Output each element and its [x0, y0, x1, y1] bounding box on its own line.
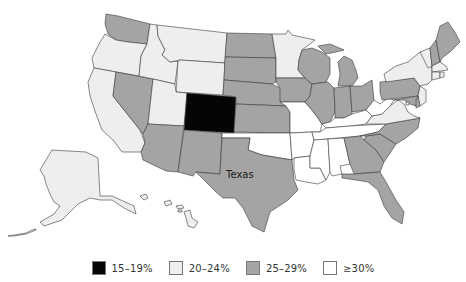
state-connecticut[interactable]: [432, 72, 440, 80]
legend-label: 25–29%: [266, 263, 307, 274]
state-new-mexico[interactable]: [178, 130, 222, 176]
legend-label: 20–24%: [189, 263, 230, 274]
legend-label: 15–19%: [112, 263, 153, 274]
state-indiana[interactable]: [334, 86, 352, 118]
state-kansas[interactable]: [234, 104, 290, 133]
legend-swatch-gray: [246, 261, 260, 275]
alaska-aleutians: [8, 229, 36, 236]
legend-swatch-light: [169, 261, 183, 275]
district-of-columbia[interactable]: [406, 102, 409, 105]
state-south-dakota[interactable]: [224, 57, 276, 84]
state-hawaii[interactable]: [140, 194, 198, 228]
state-rhode-island[interactable]: [440, 72, 444, 78]
state-montana[interactable]: [157, 25, 227, 63]
map-legend: 15–19% 20–24% 25–29% ≥30%: [0, 258, 466, 278]
legend-item-15-19: 15–19%: [92, 261, 153, 275]
legend-label: ≥30%: [343, 263, 374, 274]
legend-item-20-24: 20–24%: [169, 261, 230, 275]
state-arizona[interactable]: [141, 124, 184, 172]
state-florida[interactable]: [342, 172, 404, 224]
state-north-dakota[interactable]: [225, 33, 276, 58]
us-choropleth-map: Texas: [0, 0, 466, 250]
legend-item-30-plus: ≥30%: [323, 261, 374, 275]
legend-swatch-black: [92, 261, 106, 275]
state-iowa[interactable]: [276, 78, 312, 102]
state-colorado[interactable]: [184, 93, 236, 133]
state-alaska[interactable]: [40, 150, 136, 226]
state-wyoming[interactable]: [176, 60, 225, 95]
texas-label: Texas: [225, 169, 254, 180]
legend-item-25-29: 25–29%: [246, 261, 307, 275]
legend-swatch-white: [323, 261, 337, 275]
state-maine[interactable]: [436, 22, 460, 62]
